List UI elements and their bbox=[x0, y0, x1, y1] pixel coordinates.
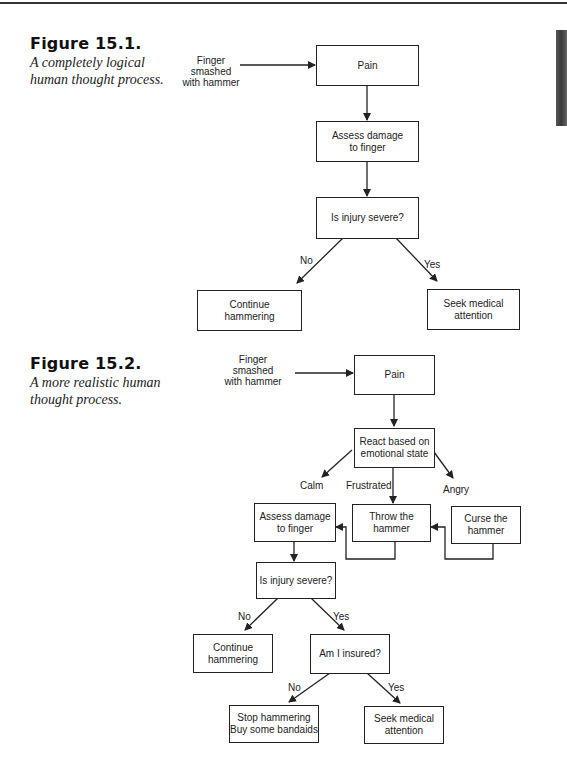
arrow-react-angry bbox=[434, 452, 453, 478]
node-seek-medical: Seek medical attention bbox=[364, 706, 444, 744]
input-label: Finger smashed with hammer bbox=[222, 354, 284, 387]
node-pain: Pain bbox=[316, 45, 419, 86]
edge-label-frustrated: Frustrated bbox=[346, 480, 392, 491]
node-decision-severe: Is injury severe? bbox=[316, 197, 419, 239]
node-am-i-insured: Am I insured? bbox=[310, 634, 390, 674]
node-continue-hammering: Continue hammering bbox=[197, 290, 302, 331]
edge-label-angry: Angry bbox=[443, 484, 469, 495]
node-assess-damage: Assess damage to finger bbox=[254, 503, 336, 542]
edge-label-no: No bbox=[300, 255, 313, 266]
node-throw-hammer: Throw the hammer bbox=[352, 504, 431, 542]
edge-label-no: No bbox=[288, 682, 301, 693]
edge-label-no: No bbox=[238, 611, 251, 622]
node-assess-damage: Assess damage to finger bbox=[316, 121, 419, 162]
input-label: Finger smashed with hammer bbox=[180, 55, 242, 88]
node-react-emotional: React based on emotional state bbox=[354, 428, 435, 468]
edge-label-yes: Yes bbox=[333, 611, 349, 622]
node-continue-hammering: Continue hammering bbox=[193, 634, 273, 673]
node-stop-hammering: Stop hammering Buy some bandaids bbox=[229, 705, 319, 743]
node-decision-severe: Is injury severe? bbox=[256, 562, 336, 599]
edge-label-yes: Yes bbox=[388, 682, 404, 693]
edge-label-yes: Yes bbox=[424, 259, 440, 270]
node-seek-medical: Seek medical attention bbox=[427, 289, 520, 330]
edge-label-calm: Calm bbox=[300, 480, 323, 491]
node-pain: Pain bbox=[354, 355, 435, 395]
arrow-react-calm bbox=[322, 450, 352, 477]
flowchart-connectors bbox=[0, 0, 567, 774]
node-curse-hammer: Curse the hammer bbox=[451, 506, 521, 544]
